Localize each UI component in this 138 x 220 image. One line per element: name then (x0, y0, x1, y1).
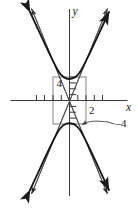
hyperbola-plot-svg (0, 0, 138, 220)
x-axis-label: x (126, 102, 131, 114)
y-axis-label: y (73, 6, 78, 18)
hyperbola-figure: y x 4 2 –4 (0, 0, 138, 220)
label-x-two: 2 (89, 105, 95, 116)
label-neg-four: –4 (116, 118, 127, 129)
leader-line-neg-four (82, 121, 115, 124)
label-a-four: 4 (57, 78, 63, 89)
